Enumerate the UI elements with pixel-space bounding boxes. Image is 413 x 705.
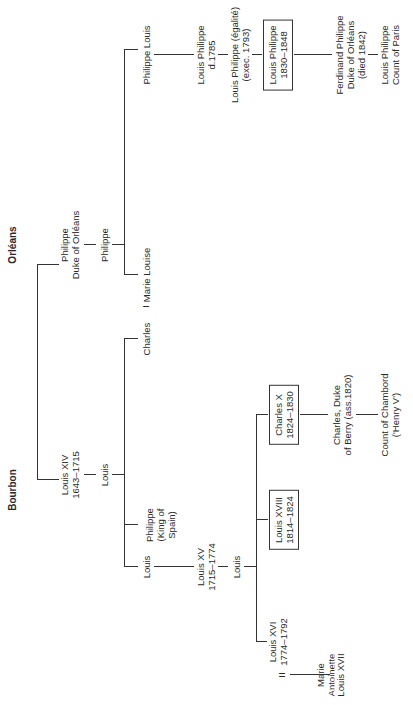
descent-line [112, 244, 124, 245]
descent-line [300, 414, 328, 415]
descent-line [84, 244, 96, 245]
person-philippe-regent: Philippe [99, 226, 110, 264]
descent-line [84, 474, 96, 475]
descent-line [218, 566, 228, 567]
person-marie-louise: Marie Louise [141, 246, 152, 304]
sibling-connector-line [37, 265, 38, 480]
person-louis-philippe-king-box: Louis Philippe1830–1848 [263, 19, 293, 90]
sibling-connector-line [124, 50, 125, 275]
connector-line [124, 274, 138, 275]
connector-line [124, 566, 138, 567]
person-louis-duke-burgundy: Louis [141, 554, 152, 581]
descent-line [294, 54, 332, 55]
descent-line [218, 54, 228, 55]
person-louis-dauphin-son-of-louis-xv: Louis [231, 554, 242, 581]
person-louis-xiv: Louis XIV1643–1715 [59, 449, 81, 501]
connector-line [124, 49, 138, 50]
person-charles: Charles [141, 321, 152, 358]
connector-line [37, 264, 61, 265]
person-louis-philippe-d1785: Louis Philipped.1785 [195, 23, 217, 86]
descent-line [154, 54, 194, 55]
person-charles-x-box: Charles X1824–1830 [269, 385, 299, 445]
person-philippe-louis: Philippe Louis [141, 23, 152, 86]
descent-line [112, 474, 124, 475]
person-philippe-duke-of-orleans: PhilippeDuke of Orléans [59, 209, 81, 282]
person-louis-dauphin: Louis [99, 462, 110, 489]
family-tree-diagram: Bourbon Orléans Louis XIV1643–1715 Louis… [0, 0, 413, 705]
person-louis-xvii: Louis XVII [335, 651, 346, 698]
descent-line [356, 414, 378, 415]
descent-line [154, 566, 194, 567]
connector-line [124, 338, 138, 339]
descent-line [252, 54, 262, 55]
person-louis-philippe-count-of-paris: Louis PhilippeCount of Paris [379, 23, 401, 87]
sibling-connector-line [256, 415, 257, 642]
connector-line [124, 524, 138, 525]
person-ferdinand-philippe: Ferdinand PhilippeDuke of Orléans(died 1… [334, 13, 367, 96]
person-louis-xvi: Louis XVI1774–1792 [267, 616, 289, 668]
connector-line [256, 414, 268, 415]
connector-line [256, 519, 268, 520]
person-louis-xviii-box: Louis XVIII1814–1824 [269, 490, 299, 550]
sibling-connector-line [124, 339, 125, 567]
person-philippe-king-of-spain: Philippe(King ofSpain) [144, 506, 177, 544]
person-louis-philippe-egalite: Louis Philippe (égalité)(exec. 1793) [229, 5, 251, 105]
descent-line [290, 674, 330, 675]
connector-line [37, 479, 61, 480]
descent-line [368, 54, 378, 55]
marriage-symbol: = [278, 668, 285, 682]
house-orleans-heading: Orléans [7, 224, 18, 265]
person-count-of-chambord: Count of Chambord('Henry V') [379, 372, 401, 459]
descent-line [244, 566, 256, 567]
person-louis-xv: Louis XV1715–1774 [195, 541, 217, 593]
house-bourbon-heading: Bourbon [7, 467, 18, 513]
person-charles-duke-of-berry: Charles, Dukeof Berry (ass.1820) [331, 373, 353, 458]
